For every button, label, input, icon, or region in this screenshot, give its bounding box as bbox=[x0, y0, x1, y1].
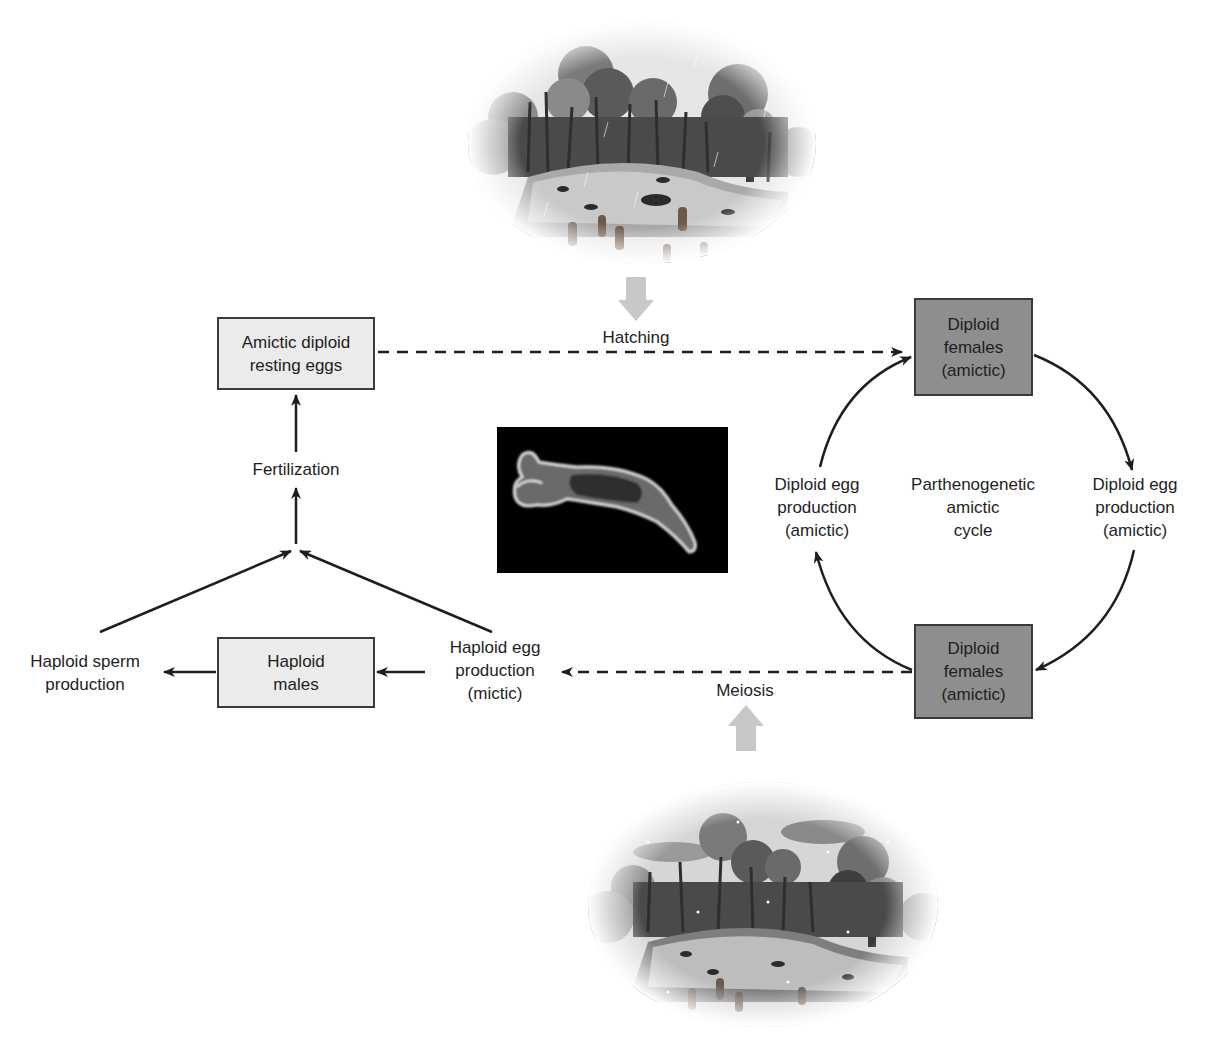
cycle-arc-top-right bbox=[1034, 355, 1132, 470]
amictic-eggs-label: Amictic diploid resting eggs bbox=[242, 331, 351, 377]
diploid-females-top-box: Diploid females (amictic) bbox=[914, 298, 1033, 396]
diploid-females-top-label: Diploid females (amictic) bbox=[941, 313, 1005, 382]
haploid-sperm-production-label: Haploid sperm production bbox=[10, 650, 160, 696]
haploid-males-box: Haploid males bbox=[217, 637, 375, 708]
diploid-females-bottom-box: Diploid females (amictic) bbox=[914, 624, 1033, 719]
diploid-egg-production-right-label: Diploid egg production (amictic) bbox=[1070, 473, 1200, 542]
meiosis-stage-arrow bbox=[728, 705, 764, 751]
sperm-to-fertilization-arrow bbox=[100, 551, 291, 632]
fertilization-label: Fertilization bbox=[226, 458, 366, 481]
hatching-label: Hatching bbox=[586, 326, 686, 349]
cycle-arc-bottom-left bbox=[816, 552, 912, 670]
haploid-egg-production-label: Haploid egg production (mictic) bbox=[420, 636, 570, 705]
amictic-diploid-resting-eggs-box: Amictic diploid resting eggs bbox=[217, 317, 375, 390]
cycle-arc-bottom-right bbox=[1036, 550, 1134, 670]
egg-to-fertilization-arrow bbox=[300, 551, 492, 632]
diploid-egg-production-left-label: Diploid egg production (amictic) bbox=[752, 473, 882, 542]
cycle-arc-top-left bbox=[820, 357, 911, 467]
hatching-stage-arrow bbox=[618, 277, 654, 321]
haploid-males-label: Haploid males bbox=[267, 650, 325, 696]
diploid-females-bottom-label: Diploid females (amictic) bbox=[941, 637, 1005, 706]
meiosis-label: Meiosis bbox=[695, 679, 795, 702]
parthenogenetic-cycle-label: Parthenogenetic amictic cycle bbox=[893, 473, 1053, 542]
